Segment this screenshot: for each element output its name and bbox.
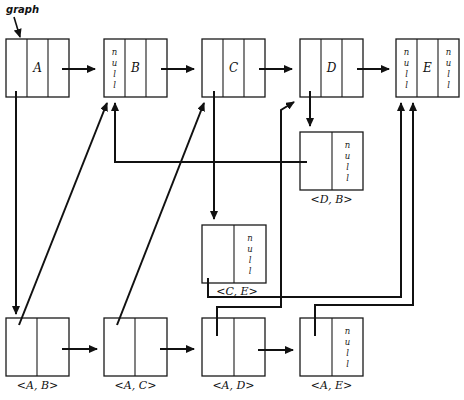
svg-text:u: u [446, 58, 451, 68]
vertex-node-b: n u l l B [104, 39, 167, 97]
svg-text:l: l [113, 69, 116, 79]
edge-node-d-b: n u l l <D, B> [300, 132, 363, 206]
svg-text:u: u [112, 58, 117, 68]
edge-node-c-e: n u l l <C, E> [202, 225, 266, 298]
arrow-ad-to-d-icon [217, 102, 294, 336]
vertex-node-a: A [6, 39, 69, 97]
edge-label-d-b: <D, B> [311, 193, 353, 206]
arrow-ab-to-b-icon [19, 103, 107, 325]
svg-text:n: n [404, 47, 409, 57]
edge-node-a-e: n u l l <A, E> [300, 318, 363, 392]
svg-text:l: l [346, 348, 349, 358]
vertex-label-a: A [32, 61, 42, 75]
vertex-node-d: D [300, 39, 363, 97]
vertex-label-d: D [326, 61, 337, 75]
edge-label-a-c: <A, C> [115, 379, 157, 392]
edge-node-a-c: <A, C> [104, 318, 167, 392]
svg-text:n: n [345, 326, 350, 336]
edge-label-a-e: <A, E> [311, 379, 352, 392]
svg-text:n: n [247, 233, 252, 243]
svg-text:n: n [112, 47, 117, 57]
edge-label-a-b: <A, B> [17, 379, 58, 392]
vertex-node-e: n u l l E n u l l [396, 39, 459, 97]
graph-pointer-arrow-icon [14, 17, 20, 37]
vertex-label-b: B [130, 61, 140, 75]
svg-text:l: l [346, 173, 349, 183]
edge-label-a-d: <A, D> [212, 379, 254, 392]
svg-text:l: l [447, 69, 450, 79]
svg-text:l: l [113, 80, 116, 90]
svg-text:u: u [247, 244, 252, 254]
arrow-db-to-b-icon [115, 103, 307, 162]
vertex-node-c: C [202, 39, 265, 97]
svg-text:n: n [446, 47, 451, 57]
edge-node-a-b: <A, B> [6, 318, 69, 392]
svg-text:l: l [346, 162, 349, 172]
svg-text:u: u [345, 337, 350, 347]
svg-text:l: l [405, 69, 408, 79]
arrow-ac-to-c-icon [117, 103, 204, 325]
svg-text:l: l [249, 255, 252, 265]
svg-text:l: l [447, 80, 450, 90]
svg-text:l: l [346, 359, 349, 369]
svg-text:l: l [405, 80, 408, 90]
graph-diagram: graph A n u l l B C D n [0, 0, 464, 400]
svg-text:u: u [345, 151, 350, 161]
svg-text:l: l [249, 266, 252, 276]
svg-text:n: n [345, 140, 350, 150]
graph-pointer-label: graph [6, 4, 39, 15]
vertex-label-c: C [229, 61, 238, 75]
vertex-label-e: E [422, 61, 432, 75]
edge-node-a-d: <A, D> [202, 318, 265, 392]
svg-text:u: u [404, 58, 409, 68]
